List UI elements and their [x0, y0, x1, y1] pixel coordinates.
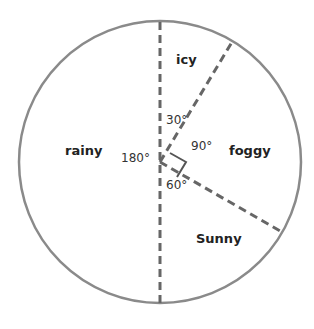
pie-diagram: [0, 0, 314, 329]
sector-label-sunny: Sunny: [196, 231, 242, 246]
angle-label-rainy: 180°: [121, 151, 150, 165]
sector-label-foggy: foggy: [229, 143, 271, 158]
angle-label-sunny: 60°: [166, 178, 187, 192]
angle-label-icy: 30°: [166, 113, 187, 127]
divider-foggy-sunny: [160, 162, 282, 232]
angle-label-foggy: 90°: [191, 139, 212, 153]
right-angle-marker: [170, 153, 186, 177]
sector-label-icy: icy: [176, 52, 197, 67]
sector-label-rainy: rainy: [65, 143, 102, 158]
